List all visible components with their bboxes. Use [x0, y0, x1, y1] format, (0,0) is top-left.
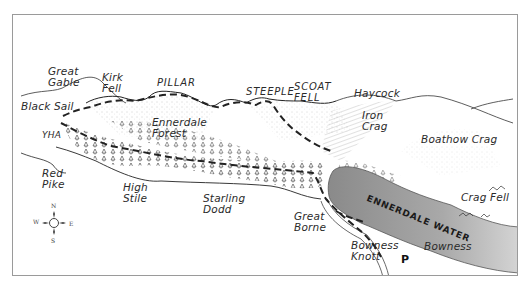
label-scoat-fell: SCOAT FELL — [294, 81, 331, 103]
compass-north: N — [51, 202, 56, 209]
label-ennerdale-forest: Ennerdale Forest — [152, 117, 207, 139]
label-bowness-knott: Bowness Knott — [351, 240, 399, 262]
label-kirk-fell: Kirk Fell — [102, 72, 123, 94]
terrain-illustration — [13, 15, 518, 276]
label-high-stile: High Stile — [123, 182, 148, 204]
label-boathow-crag: Boathow Crag — [421, 134, 497, 145]
label-great-borne: Great Borne — [294, 211, 326, 233]
label-haycock: Haycock — [354, 88, 400, 99]
label-yha: YHA — [42, 130, 61, 141]
label-starling-dodd: Starling Dodd — [203, 193, 245, 215]
label-pillar: PILLAR — [157, 77, 196, 88]
label-iron-crag: Iron Crag — [362, 110, 388, 132]
compass-south: S — [51, 237, 55, 244]
compass-rose — [42, 211, 66, 235]
label-black-sail: Black Sail — [21, 101, 74, 112]
parking-marker: P — [401, 253, 409, 266]
label-crag-fell: Crag Fell — [461, 192, 509, 203]
label-steeple: STEEPLE — [246, 86, 295, 97]
label-great-gable: Great Gable — [48, 66, 80, 88]
label-bowness: Bowness — [424, 241, 472, 252]
compass-east: E — [69, 220, 73, 227]
map-frame — [12, 14, 518, 276]
compass-west: W — [33, 218, 39, 225]
label-red-pike: Red Pike — [42, 168, 65, 190]
